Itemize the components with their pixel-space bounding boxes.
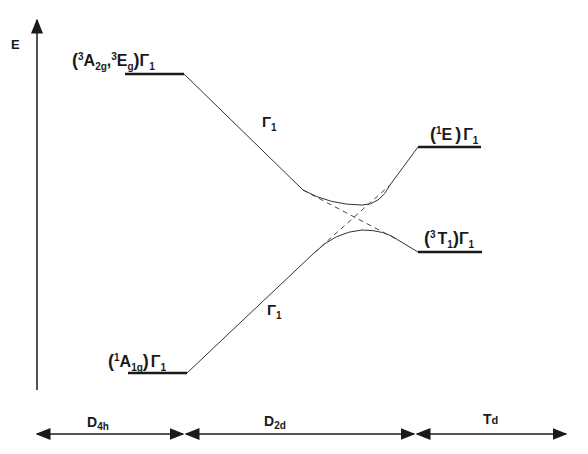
lower-line-label: Γ1	[267, 301, 282, 321]
label-upper-left: (3A2g,3Eg)Γ1	[72, 50, 155, 72]
region-label-d2d: D2d	[264, 413, 286, 431]
label-lower-right: (3T1)Γ1	[424, 228, 475, 250]
energy-level-diagram: E (3A2g,3Eg)Γ1 (1A1g)Γ1 (1E)Γ1 (3T1)Γ1 Γ…	[0, 0, 588, 454]
label-upper-right: (1E)Γ1	[430, 124, 479, 146]
energy-axis-label: E	[11, 37, 20, 52]
upper-line-label: Γ1	[262, 113, 277, 133]
lower-correlation-line	[187, 230, 418, 373]
upper-correlation-line	[184, 74, 418, 205]
region-label-d4h: D4h	[87, 414, 109, 432]
diabatic-line-down	[303, 190, 398, 240]
label-lower-left: (1A1g)Γ1	[108, 351, 166, 373]
region-label-td: Td	[483, 411, 498, 427]
